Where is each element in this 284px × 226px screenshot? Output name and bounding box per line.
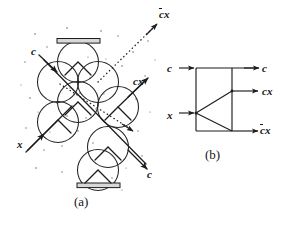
arrow-cbarx-output [146,24,157,35]
label-b-output-cx: cx [262,86,272,97]
label-a-input-c: c [31,46,36,57]
label-b-input-x: x [167,110,173,121]
figure-drawing [0,0,284,226]
label-a-output-cx: cx [133,76,143,87]
label-b-output-c: c [262,63,267,74]
caption-panel-b: (b) [205,147,220,163]
ray-c-main [44,60,146,164]
label-a-input-x: x [17,139,23,150]
arrow-c-output [128,150,147,169]
mirror-bottom [77,183,120,188]
wire-fanout-upper [196,91,232,113]
label-b-input-c: c [167,63,172,74]
ray-bounce-c1 [65,62,91,75]
ray-x-bounce [45,120,71,133]
label-a-output-c: c [147,169,152,180]
junction-dot-x [195,112,198,115]
junction-dot-cx [231,90,234,93]
label-a-output-cbarx-overbar: c [159,8,164,20]
label-b-output-cbarx-rest: x [265,124,271,136]
panel-a-circles [38,42,139,191]
background-speckle [20,27,155,190]
label-b-output-cbarx-overbar: c [260,124,265,136]
label-a-output-cbarx: cx [159,8,169,20]
panel-b-schematic [179,68,259,131]
ray-bounce-c8 [85,170,111,183]
label-a-output-cbarx-rest: x [164,8,170,20]
ray-bounce-c6 [105,107,131,120]
caption-panel-a: (a) [74,194,88,210]
wire-fanout-lower [196,113,232,131]
mirror-top [57,39,100,44]
ray-bounce-c7 [95,147,121,160]
trajectory-c-path [39,55,147,169]
figure-container: c x cx cx c (a) c x c cx cx (b) [0,0,284,226]
label-b-output-cbarx: cx [260,124,270,136]
